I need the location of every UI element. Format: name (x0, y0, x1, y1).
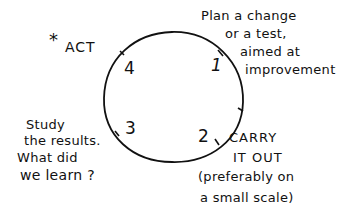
asterisk-marker: * (49, 29, 58, 50)
step-2-number: 2 (198, 128, 209, 145)
step-3-line-2: the results. (24, 133, 101, 148)
step-1-line-3: aimed at (240, 44, 300, 59)
step-2-line-1: CARRY (229, 130, 277, 145)
step-4-line-1: ACT (65, 40, 96, 55)
step-3-number: 3 (125, 120, 136, 137)
step-1-number: 1 (211, 57, 222, 74)
step-3-line-4: we learn ? (20, 168, 95, 183)
pdsa-cycle-diagram: 1 2 3 4 Plan a change or a test, aimed a… (0, 0, 347, 222)
step-1-line-2: or a test, (225, 26, 287, 41)
step-1-line-1: Plan a change (201, 8, 297, 23)
step-2-line-2: IT OUT (233, 150, 283, 165)
step-3-line-3: What did (17, 150, 78, 165)
step-2-line-3: (preferably on (198, 169, 294, 184)
step-1-line-4: improvement (245, 62, 336, 77)
tick-mark-2 (215, 139, 219, 145)
step-2-line-4: a small scale) (200, 190, 294, 205)
step-3-line-1: Study (26, 117, 65, 132)
step-4-number: 4 (124, 60, 135, 77)
